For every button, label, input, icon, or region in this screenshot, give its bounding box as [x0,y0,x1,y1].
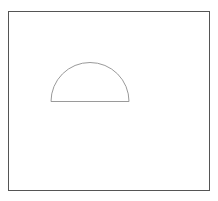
figure-canvas: Semicircle inside a rectangular frame A … [0,0,218,201]
line-drawing: Semicircle inside a rectangular frame A … [0,0,218,201]
semicircle-shape [51,63,129,102]
